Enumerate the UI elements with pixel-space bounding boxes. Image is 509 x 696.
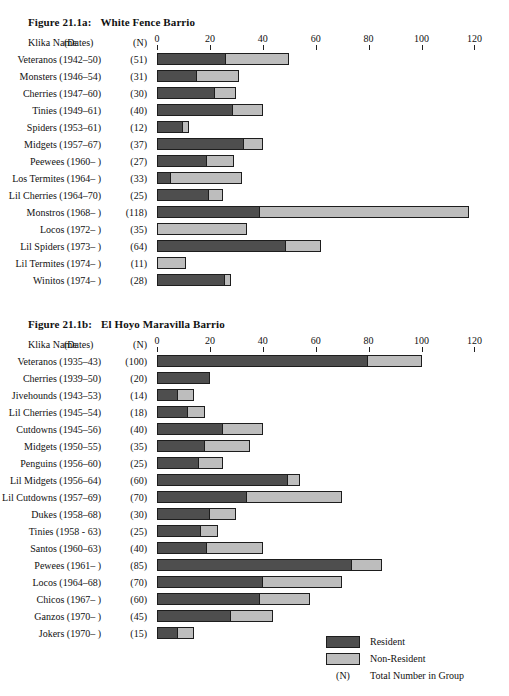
bar-segment-nonresident [178, 390, 193, 400]
resident-swatch-icon [326, 636, 360, 648]
row-plot-area [155, 136, 501, 153]
row-n-total: (25) [119, 458, 155, 469]
row-plot-area [155, 221, 501, 238]
bar-row: Midgets (1950–55)(35) [0, 438, 509, 455]
bar-segment-resident [158, 526, 201, 536]
stacked-bar [157, 206, 469, 218]
stacked-bar [157, 440, 250, 452]
bar-segment-resident [158, 509, 210, 519]
bar-row: Veteranos (1942–50)(51) [0, 51, 509, 68]
row-plot-area [155, 102, 501, 119]
bar-segment-resident [158, 458, 199, 468]
row-label: Tinies (1949–61) [0, 105, 105, 116]
bar-segment-resident [158, 173, 171, 183]
row-n-total: (30) [119, 88, 155, 99]
row-n-total: (40) [119, 424, 155, 435]
row-label: Peewees (1960– ) [0, 156, 105, 167]
column-header-n-b: (N) [119, 339, 155, 350]
bar-row: Lil Spiders (1973– )(64) [0, 238, 509, 255]
x-tick-mark-40 [263, 347, 264, 352]
bar-segment-nonresident [205, 441, 249, 451]
row-n-total: (20) [119, 373, 155, 384]
column-header-row-a: Klika Name (Dates) (N) 020406080100120 [0, 34, 509, 51]
column-header-dates-a: (Dates) [64, 37, 119, 48]
bar-segment-nonresident [183, 122, 188, 132]
x-tick-label-80: 80 [364, 335, 374, 346]
row-plot-area [155, 404, 501, 421]
x-tick-label-20: 20 [205, 335, 215, 346]
bar-row: Midgets (1957–67)(37) [0, 136, 509, 153]
x-tick-mark-0 [157, 347, 158, 352]
row-n-total: (12) [119, 122, 155, 133]
row-label: Jokers (1970– ) [0, 628, 105, 639]
row-n-total: (15) [119, 628, 155, 639]
x-tick-label-40: 40 [258, 33, 268, 44]
stacked-bar [157, 457, 223, 469]
row-label: Ganzos (1970– ) [0, 611, 105, 622]
bar-segment-resident [158, 156, 207, 166]
bar-segment-resident [158, 105, 233, 115]
row-plot-area [155, 204, 501, 221]
row-n-total: (118) [119, 207, 155, 218]
bar-segment-resident [158, 577, 263, 587]
stacked-bar [157, 372, 210, 384]
legend-n-key: (N) [326, 670, 360, 681]
row-plot-area [155, 591, 501, 608]
x-tick-label-60: 60 [311, 33, 321, 44]
bar-segment-nonresident [223, 424, 262, 434]
row-label: Jivehounds (1943–53) [0, 390, 105, 401]
x-axis-a: 020406080100120 [155, 34, 501, 51]
bar-row: Tinies (1958 - 63)(25) [0, 523, 509, 540]
column-header-dates-b: (Dates) [64, 339, 119, 350]
bar-segment-nonresident [207, 543, 261, 553]
bar-segment-resident [158, 71, 197, 81]
bar-segment-nonresident [263, 577, 341, 587]
row-n-total: (18) [119, 407, 155, 418]
x-tick-label-20: 20 [205, 33, 215, 44]
x-tick-mark-0 [157, 45, 158, 50]
legend-item-nonresident: Non-Resident [326, 650, 509, 667]
bar-segment-resident [158, 560, 352, 570]
bar-rows-a: Veteranos (1942–50)(51)Monsters (1946–54… [0, 51, 509, 289]
bar-segment-nonresident [158, 258, 185, 268]
bar-row: Peewees (1960– )(27) [0, 153, 509, 170]
bar-segment-resident [158, 356, 368, 366]
row-label: Monsters (1946–54) [0, 71, 105, 82]
bar-segment-resident [158, 207, 260, 217]
row-plot-area [155, 489, 501, 506]
bar-row: Spiders (1953–61)(12) [0, 119, 509, 136]
x-tick-label-100: 100 [414, 33, 429, 44]
row-label: Pewees (1961– ) [0, 560, 105, 571]
row-label: Lil Midgets (1956–64) [0, 475, 105, 486]
x-tick-label-0: 0 [155, 33, 160, 44]
bar-row: Ganzos (1970– )(45) [0, 608, 509, 625]
bar-segment-nonresident [352, 560, 381, 570]
x-tick-mark-20 [210, 45, 211, 50]
bar-row: Penguins (1956–60)(25) [0, 455, 509, 472]
stacked-bar [157, 627, 194, 639]
bar-row: Lil Cherries (1945–54)(18) [0, 404, 509, 421]
stacked-bar [157, 172, 242, 184]
x-tick-mark-20 [210, 347, 211, 352]
row-n-total: (31) [119, 71, 155, 82]
bar-segment-resident [158, 390, 178, 400]
row-plot-area [155, 540, 501, 557]
figure-b-title: Figure 21.1b:El Hoyo Maravilla Barrio [28, 318, 509, 330]
row-label: Locos (1964–68) [0, 577, 105, 588]
row-label: Santos (1960–63) [0, 543, 105, 554]
stacked-bar [157, 389, 194, 401]
column-header-name-b: Klika Name [0, 339, 64, 350]
bar-segment-resident [158, 475, 288, 485]
legend-label-n: Total Number in Group [370, 670, 464, 681]
row-label: Dukes (1958–68) [0, 509, 105, 520]
row-plot-area [155, 272, 501, 289]
bar-row: Lil Cutdowns (1957–69)(70) [0, 489, 509, 506]
stacked-bar [157, 491, 342, 503]
bar-row: Dukes (1958–68)(30) [0, 506, 509, 523]
row-plot-area [155, 85, 501, 102]
row-n-total: (14) [119, 390, 155, 401]
x-tick-mark-100 [422, 347, 423, 352]
bar-segment-nonresident [244, 139, 262, 149]
row-plot-area [155, 119, 501, 136]
stacked-bar [157, 406, 205, 418]
